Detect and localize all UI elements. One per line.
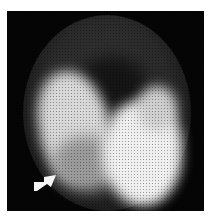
arrow-icon bbox=[34, 174, 56, 192]
scan-image bbox=[7, 11, 204, 211]
